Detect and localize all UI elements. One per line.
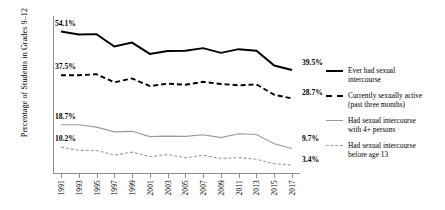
x-tick-label: 2005 bbox=[181, 180, 190, 196]
legend-label-cont: with 4+ persons bbox=[348, 125, 444, 134]
legend-label-cont: before age 13 bbox=[348, 150, 444, 159]
x-tick-label: 2013 bbox=[252, 180, 261, 196]
start-value-label: 54.1% bbox=[55, 19, 76, 28]
series-line-0 bbox=[61, 32, 292, 70]
end-value-label: 28.7% bbox=[302, 88, 323, 97]
legend-item[interactable]: Had sexual intercoursewith 4+ persons bbox=[326, 116, 444, 134]
x-tick bbox=[274, 174, 275, 178]
start-value-label: 10.2% bbox=[55, 134, 76, 143]
legend-label: Ever had sexual bbox=[348, 66, 444, 75]
x-tick bbox=[256, 174, 257, 178]
x-tick bbox=[132, 174, 133, 178]
legend-label: Currently sexually active bbox=[348, 91, 444, 100]
legend-item[interactable]: Currently sexually active(past three mon… bbox=[326, 91, 444, 109]
x-tick-label: 1995 bbox=[93, 180, 102, 196]
y-axis-title: Percentage of Students in Grades 9–12 bbox=[20, 0, 29, 163]
start-value-label: 37.5% bbox=[55, 62, 76, 71]
x-tick-label: 2011 bbox=[235, 180, 244, 195]
legend-line-swatch bbox=[326, 95, 343, 97]
x-tick-label: 2009 bbox=[217, 180, 226, 196]
legend-line-swatch bbox=[326, 70, 343, 72]
legend-label: Had sexual intercourse bbox=[348, 141, 444, 150]
legend-item[interactable]: Ever had sexualintercourse bbox=[326, 66, 444, 84]
x-tick bbox=[79, 174, 80, 178]
x-tick bbox=[239, 174, 240, 178]
x-tick-label: 1997 bbox=[110, 180, 119, 196]
x-tick bbox=[61, 174, 62, 178]
series-line-1 bbox=[61, 74, 292, 98]
x-tick-label: 1993 bbox=[75, 180, 84, 196]
x-tick bbox=[292, 174, 293, 178]
end-value-label: 9.7% bbox=[302, 134, 319, 143]
x-tick bbox=[185, 174, 186, 178]
end-value-label: 39.5% bbox=[302, 58, 323, 67]
series-line-3 bbox=[61, 147, 292, 165]
x-tick-label: 1999 bbox=[128, 180, 137, 196]
x-tick-label: 2015 bbox=[270, 180, 279, 196]
x-tick-label: 2007 bbox=[199, 180, 208, 196]
x-tick-label: 2017 bbox=[288, 180, 297, 196]
x-tick-label: 1991 bbox=[57, 180, 66, 196]
start-value-label: 18.7% bbox=[55, 112, 76, 121]
series-lines bbox=[53, 16, 300, 174]
legend: Ever had sexualintercourseCurrently sexu… bbox=[326, 66, 444, 166]
x-tick-label: 2003 bbox=[164, 180, 173, 196]
x-tick bbox=[221, 174, 222, 178]
x-tick bbox=[114, 174, 115, 178]
x-tick bbox=[203, 174, 204, 178]
legend-line-swatch bbox=[326, 120, 343, 121]
legend-line-swatch bbox=[326, 145, 343, 146]
x-tick bbox=[168, 174, 169, 178]
x-tick-label: 2001 bbox=[146, 180, 155, 196]
legend-label-cont: (past three months) bbox=[348, 100, 444, 109]
plot-area bbox=[53, 16, 300, 174]
series-line-2 bbox=[61, 125, 292, 149]
end-value-label: 3.4% bbox=[302, 155, 319, 164]
legend-item[interactable]: Had sexual intercoursebefore age 13 bbox=[326, 141, 444, 159]
x-tick bbox=[150, 174, 151, 178]
chart-figure: Percentage of Students in Grades 9–12 19… bbox=[0, 0, 445, 210]
x-tick bbox=[97, 174, 98, 178]
legend-label: Had sexual intercourse bbox=[348, 116, 444, 125]
legend-label-cont: intercourse bbox=[348, 75, 444, 84]
